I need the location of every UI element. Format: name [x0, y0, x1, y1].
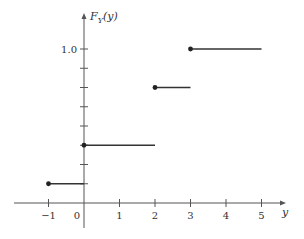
- y-tick-label: 1.0: [61, 44, 77, 55]
- step-segments: [46, 47, 261, 187]
- x-tick-label: 3: [187, 210, 193, 221]
- x-tick-label: 0: [74, 210, 80, 221]
- y-axis-arrow-icon: [82, 13, 87, 19]
- x-axis-arrow-icon: [280, 201, 286, 206]
- closed-dot-icon: [188, 47, 193, 52]
- closed-dot-icon: [153, 85, 158, 90]
- ticks: −10123451.0: [41, 44, 265, 222]
- x-tick-label: 2: [152, 210, 158, 221]
- x-tick-label: 4: [223, 210, 229, 221]
- x-axis-title: y: [281, 206, 289, 219]
- x-tick-label: −1: [41, 210, 56, 221]
- closed-dot-icon: [46, 181, 51, 186]
- closed-dot-icon: [82, 143, 87, 148]
- x-tick-label: 5: [258, 210, 264, 221]
- labels: FY(y) y: [89, 10, 289, 219]
- axes: [14, 13, 286, 228]
- x-tick-label: 1: [116, 210, 122, 221]
- y-axis-title: FY(y): [89, 10, 118, 25]
- cdf-step-chart: −10123451.0 FY(y) y: [0, 0, 304, 239]
